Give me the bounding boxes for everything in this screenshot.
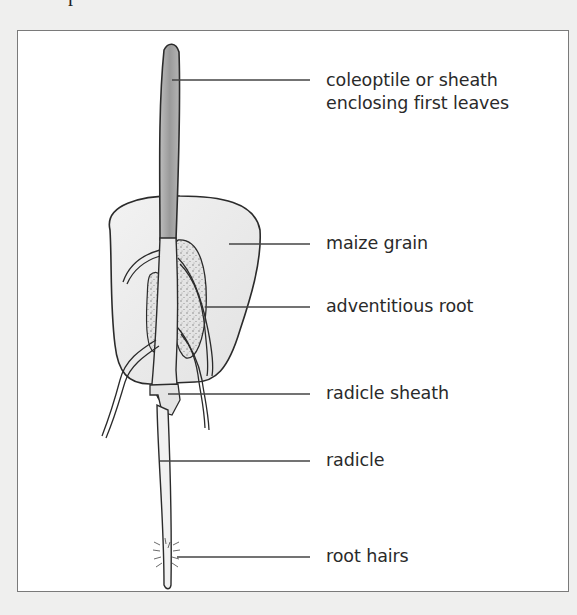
label-coleoptile-line1: coleoptile or sheath <box>326 69 509 92</box>
label-radicle-sheath: radicle sheath <box>326 382 449 405</box>
label-coleoptile: coleoptile or sheath enclosing first lea… <box>326 69 509 115</box>
label-radicle: radicle <box>326 449 384 472</box>
label-maize-grain: maize grain <box>326 232 428 255</box>
radicle-shape <box>157 405 171 589</box>
label-adventitious-root: adventitious root <box>326 295 473 318</box>
label-root-hairs: root hairs <box>326 545 409 568</box>
coleoptile-shape <box>160 44 180 240</box>
label-coleoptile-line2: enclosing first leaves <box>326 92 509 115</box>
